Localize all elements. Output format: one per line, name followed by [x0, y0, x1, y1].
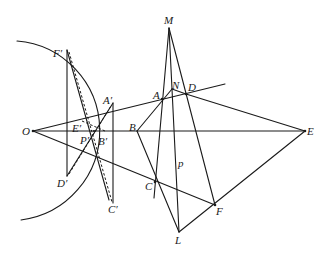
label-F: F — [215, 205, 223, 217]
label-C: C — [145, 180, 153, 192]
label-P-prime: P′ — [79, 134, 90, 146]
point-A — [161, 98, 164, 101]
label-B: B — [129, 121, 136, 133]
label-N: N — [171, 79, 180, 91]
line-D-E — [186, 94, 305, 131]
dashed-E1-B1 — [82, 121, 105, 131]
line-M-C — [154, 28, 169, 198]
point-D — [185, 93, 188, 96]
label-M: M — [163, 14, 174, 26]
label-E: E — [306, 125, 314, 137]
label-O: O — [22, 125, 30, 137]
line-O-C-F — [33, 131, 215, 205]
point-E — [304, 130, 307, 133]
point-C — [154, 181, 157, 184]
label-D: D — [187, 81, 196, 93]
label-L: L — [174, 234, 181, 246]
label-C-prime: C′ — [108, 203, 118, 215]
label-F-prime: F′ — [52, 47, 63, 59]
label-D-prime: D′ — [56, 177, 68, 189]
label-A-prime: A′ — [102, 94, 113, 106]
line-B-L — [137, 131, 179, 232]
geometry-diagram: M A N D B E O C p F L F′ D′ A′ C′ E′ B′ … — [0, 0, 330, 256]
point-O — [32, 130, 35, 133]
label-A: A — [152, 89, 160, 101]
label-B-prime: B′ — [98, 135, 108, 147]
label-E-prime: E′ — [71, 122, 82, 134]
point-P1 — [93, 130, 95, 132]
line-E-F-L — [179, 131, 305, 232]
label-p: p — [177, 157, 184, 169]
